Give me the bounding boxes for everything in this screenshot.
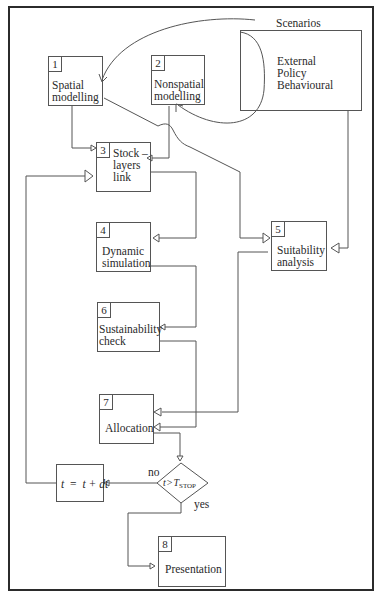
node-label-line1: Stock – [113, 147, 148, 159]
scenarios-title: Scenarios [276, 17, 321, 29]
node-label-line1: Presentation [165, 563, 222, 575]
node-7-allocation: 7 Allocation [99, 394, 154, 444]
node-number: 5 [272, 222, 285, 237]
node-label-line1: Suitability [277, 244, 325, 256]
arrowhead-to-3c [85, 170, 93, 182]
edge-7-to-decision [153, 433, 180, 456]
node-4-dynamic-simulation: 4 Dynamic simulation [96, 222, 151, 272]
node-label-line1: Dynamic [102, 245, 144, 257]
update-lhs: t [61, 478, 64, 490]
arrowhead-to-decision [177, 456, 183, 461]
update-step-box: t = t + dt [56, 464, 104, 502]
node-6-sustainability-check: 6 Sustainability check [97, 302, 160, 352]
node-label-line1: Allocation [105, 422, 154, 434]
node-number: 2 [152, 56, 165, 71]
edge-update-to-3 [26, 176, 85, 483]
node-label-line1: Spatial [52, 79, 84, 91]
node-label-line1: Sustainability [99, 323, 162, 335]
node-label-line2: simulation [102, 257, 151, 269]
node-label-line2: layers [113, 159, 140, 171]
decision-op: > [167, 477, 173, 488]
arrowhead-to-4 [153, 234, 159, 242]
edge-6-to-7 [159, 341, 196, 427]
arrowhead-to-7b [154, 408, 161, 416]
node-5-suitability-analysis: 5 Suitability analysis [271, 221, 327, 271]
arrowhead-to-8 [150, 563, 155, 569]
update-step-text: t = t + dt [61, 478, 108, 490]
node-3-stock-layers-link: 3 Stock – layers link [96, 142, 151, 192]
scenarios-box: External Policy Behavioural [240, 30, 362, 111]
node-number: 4 [97, 223, 110, 238]
arrowhead-to-5 [331, 243, 339, 253]
node-label-line2: modelling [52, 91, 99, 103]
edge-1-to-3 [72, 105, 91, 148]
decision-condition: t>TSTOP [163, 477, 196, 492]
flow-diagram: Scenarios External Policy Behavioural 1 … [0, 0, 382, 600]
node-label-line2: check [99, 335, 126, 347]
scenario-policy: Policy [277, 67, 306, 79]
update-rhs: t + dt [82, 478, 108, 490]
node-label-line1: Nonspatial [154, 78, 204, 90]
node-number: 7 [100, 395, 113, 410]
node-label-line2: analysis [277, 256, 314, 268]
scenario-behavioural: Behavioural [277, 79, 333, 91]
node-2-nonspatial-modelling: 2 Nonspatial modelling [151, 55, 205, 105]
decision-yes-label: yes [194, 498, 209, 510]
edge-scenarios-to-5 [338, 111, 348, 248]
scenario-external: External [277, 55, 316, 67]
node-1-spatial-modelling: 1 Spatial modelling [48, 56, 103, 106]
decision-no-label: no [148, 466, 160, 478]
edge-3-to-4 [150, 172, 196, 238]
node-number: 3 [97, 143, 110, 158]
node-label-line2: modelling [154, 90, 201, 102]
decision-var: t [163, 477, 166, 488]
decision-rhs-sub: STOP [179, 482, 196, 490]
edge-5-to-7 [162, 252, 268, 412]
update-eq: = [70, 478, 77, 490]
node-number: 6 [98, 303, 111, 318]
node-number: 1 [49, 57, 62, 72]
node-number: 8 [159, 537, 172, 552]
node-8-presentation: 8 Presentation [158, 536, 226, 587]
arrowhead-to-7a [154, 423, 160, 431]
node-label-line3: link [113, 171, 131, 183]
arrowhead-to-5b [263, 233, 270, 243]
edge-2-to-3 [152, 106, 169, 158]
